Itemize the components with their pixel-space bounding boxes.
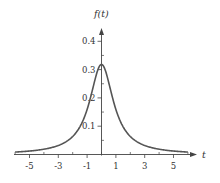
x-tick-label: -5 bbox=[25, 161, 33, 171]
y-tick-label: 0.4 bbox=[82, 36, 96, 46]
x-tick-label: -3 bbox=[54, 161, 62, 171]
y-axis-arrow-icon bbox=[99, 28, 104, 35]
chart: -5-3-1135 0.10.20.30.4 t f(t) bbox=[0, 0, 220, 183]
y-tick-label: 0.1 bbox=[82, 121, 96, 131]
x-axis-label: t bbox=[202, 149, 206, 160]
x-axis-arrow-icon bbox=[190, 152, 197, 157]
y-axis-label: f(t) bbox=[93, 8, 109, 19]
y-tick-label: 0.3 bbox=[82, 65, 96, 75]
x-tick-label: -1 bbox=[83, 161, 91, 171]
x-axis: -5-3-1135 bbox=[14, 152, 197, 171]
y-axis: 0.10.20.30.4 bbox=[82, 28, 104, 156]
x-tick-label: 5 bbox=[171, 161, 176, 171]
x-tick-label: 1 bbox=[113, 161, 118, 171]
x-tick-label: 3 bbox=[142, 161, 147, 171]
